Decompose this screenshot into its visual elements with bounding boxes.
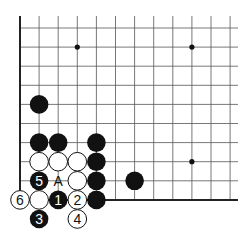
stone-disc	[68, 152, 87, 171]
white-stone	[49, 152, 68, 171]
stone-disc	[87, 191, 106, 210]
stone-disc	[30, 133, 49, 152]
point-marker-label: A	[54, 173, 64, 189]
black-stone	[87, 191, 106, 210]
stone-disc	[125, 172, 144, 191]
move-number: 4	[73, 211, 81, 227]
black-stone	[125, 172, 144, 191]
black-stone: 1	[49, 191, 68, 210]
black-stone	[30, 95, 49, 114]
move-number: 5	[35, 173, 43, 189]
black-stone: 3	[30, 210, 49, 229]
black-stone	[87, 172, 106, 191]
stone-disc	[30, 95, 49, 114]
black-stone	[49, 133, 68, 152]
stone-disc	[87, 152, 106, 171]
stone-disc	[49, 152, 68, 171]
white-stone: 6	[11, 191, 30, 210]
white-stone: 4	[68, 210, 87, 229]
white-stone: 2	[68, 191, 87, 210]
stone-disc	[87, 133, 106, 152]
black-stone: 5	[30, 172, 49, 191]
move-number: 1	[54, 192, 62, 208]
white-stone	[68, 152, 87, 171]
stone-disc	[87, 172, 106, 191]
move-number: 6	[16, 192, 24, 208]
star-point	[189, 159, 194, 164]
move-number: 2	[73, 192, 81, 208]
stone-disc	[30, 152, 49, 171]
stone-disc	[30, 191, 49, 210]
white-stone	[68, 172, 87, 191]
black-stone	[87, 152, 106, 171]
grid-lines	[19, 16, 238, 200]
move-number: 3	[35, 211, 43, 227]
star-point	[189, 45, 194, 50]
black-stone	[87, 133, 106, 152]
star-point	[75, 45, 80, 50]
black-stone	[30, 133, 49, 152]
stone-disc	[49, 133, 68, 152]
white-stone	[30, 191, 49, 210]
white-stone	[30, 152, 49, 171]
stone-disc	[68, 172, 87, 191]
go-board: 561234A	[0, 0, 247, 243]
